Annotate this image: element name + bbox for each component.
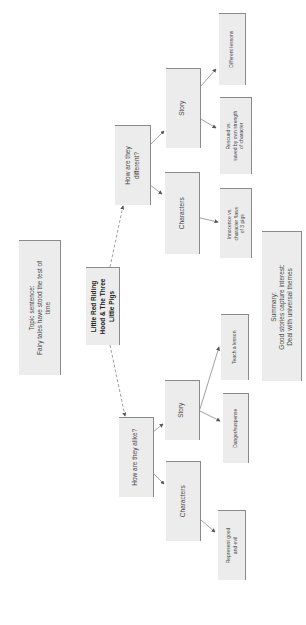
summary-line-1: Summary: (270, 264, 278, 349)
different-lessons-node: Different lessons (219, 13, 246, 85)
central-line-2: Hood & The Three (98, 279, 107, 335)
innocence-line-1: Innocence vs. (226, 207, 233, 241)
rescued-line-3: of character (239, 111, 246, 161)
summary-line-2: Good stories capture interest: (278, 264, 286, 349)
different-characters-node: Characters (165, 172, 200, 254)
topic-line-3: time (44, 261, 52, 355)
represent-line-1: Represent good (225, 528, 232, 564)
teach-lesson-node: Teach a lesson (221, 314, 249, 380)
teach-lesson-line-1: Teach a lesson (231, 331, 238, 364)
represent-good-evil-node: Represent good and evil (218, 510, 246, 580)
topic-sentence-node: Topic sentence: Fairy tales have stood t… (19, 240, 61, 375)
summary-node: Summary: Good stories capture interest: … (262, 231, 302, 381)
central-line-3: Little Pigs (107, 279, 116, 335)
alike-node: How are they alike? (119, 417, 154, 497)
alike-story-label: Story (178, 403, 187, 418)
represent-line-2: and evil (232, 528, 239, 564)
rescued-node: Rescued vs. saved by own strength of cha… (220, 97, 252, 174)
innocence-node: Innocence vs. character flaws of 3 pigs (220, 188, 252, 258)
alike-characters-label: Characters (179, 486, 188, 518)
innocence-line-3: of 3 pigs (239, 207, 246, 241)
central-node: Little Red Riding Hood & The Three Littl… (86, 267, 120, 345)
summary-line-3: Deal with universal themes (286, 264, 294, 349)
different-story-node: Story (166, 68, 201, 148)
innocence-line-2: character flaws (232, 207, 239, 241)
danger-suspense-line-1: Danger/suspense (232, 409, 239, 448)
different-line-1: How are they (124, 146, 133, 184)
alike-line-1: How are they alike? (132, 429, 141, 486)
different-node: How are they different? (115, 125, 151, 205)
different-characters-label: Characters (178, 198, 187, 230)
alike-characters-node: Characters (166, 461, 201, 541)
central-line-1: Little Red Riding (89, 279, 98, 335)
topic-line-1: Topic sentence: (28, 261, 36, 355)
different-line-2: different? (133, 146, 142, 184)
different-lessons-line-1: Different lessons (229, 31, 236, 68)
topic-line-2: Fairy tales have stood the test of (36, 261, 44, 355)
danger-suspense-node: Danger/suspense (223, 393, 249, 463)
alike-story-node: Story (165, 380, 200, 440)
different-story-label: Story (179, 101, 188, 116)
